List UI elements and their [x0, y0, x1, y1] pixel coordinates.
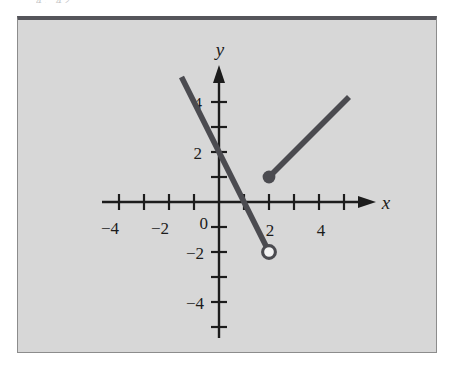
x-tick-label-pos2: 2 [266, 221, 275, 240]
increasing-branch-segment [269, 97, 349, 177]
x-axis-arrow-icon [358, 196, 376, 208]
figure-page: 4. 42 [0, 0, 454, 369]
closed-circle-icon [263, 171, 276, 184]
caption-fragment: 4. 42 [36, 0, 73, 3]
y-tick-label-neg2: −2 [186, 244, 204, 263]
figure-panel: −4 −2 2 4 4 2 −2 −4 0 x y [17, 16, 437, 353]
x-axis-label: x [381, 192, 391, 213]
origin-label: 0 [200, 214, 209, 233]
open-circle-icon [263, 246, 276, 259]
y-tick-label-pos2: 2 [194, 144, 203, 163]
y-axis-arrow-icon [213, 65, 225, 83]
x-tick-label-neg4: −4 [101, 219, 120, 238]
coordinate-plane: −4 −2 2 4 4 2 −2 −4 0 x y [18, 20, 436, 351]
x-tick-label-neg2: −2 [151, 219, 169, 238]
y-tick-label-neg4: −4 [186, 294, 205, 313]
y-axis-label: y [214, 39, 225, 60]
decreasing-branch-segment [182, 77, 270, 252]
x-tick-label-pos4: 4 [317, 221, 326, 240]
